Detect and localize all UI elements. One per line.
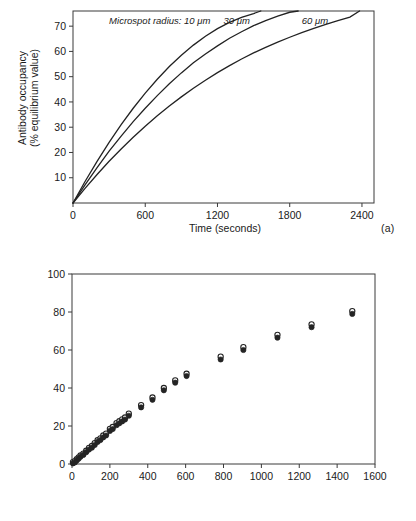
panel-a-x-tick-label-2400: 2400 <box>350 209 374 221</box>
panel-a-curve-30um <box>73 11 298 203</box>
panel-b-x-tick-label-200: 200 <box>101 470 119 482</box>
panel-a-plot: 102030405060700600120018002400Microspot … <box>0 0 416 258</box>
panel-b-point-filled <box>173 380 178 385</box>
panel-b-x-tick-label-1600: 1600 <box>363 470 387 482</box>
panel-a-curve-60um <box>73 11 360 203</box>
panel-b-point-filled <box>139 405 144 410</box>
panel-a-y-tick-label-70: 70 <box>54 20 66 32</box>
figure-container: 102030405060700600120018002400Microspot … <box>0 0 416 521</box>
panel-b-point-filled <box>103 433 108 438</box>
panel-b-y-tick-label-20: 20 <box>53 420 65 432</box>
panel-b-y-tick-label-100: 100 <box>47 268 65 280</box>
panel-b-point-filled <box>218 357 223 362</box>
panel-b-x-tick-label-800: 800 <box>215 470 233 482</box>
panel-b-point-filled <box>241 347 246 352</box>
panel-a-x-tick-label-1800: 1800 <box>278 209 302 221</box>
panel-b-point-filled <box>150 397 155 402</box>
panel-b-point-filled <box>309 325 314 330</box>
panel-b-x-tick-label-0: 0 <box>69 470 75 482</box>
panel-b-y-tick-label-40: 40 <box>53 382 65 394</box>
panel-b-point-filled <box>350 311 355 316</box>
panel-b-x-tick-label-600: 600 <box>177 470 195 482</box>
panel-b-point-filled <box>161 388 166 393</box>
panel-a-curve-10um <box>73 11 261 203</box>
panel-b-x-tick-label-1000: 1000 <box>250 470 274 482</box>
panel-a-x-tick-label-1200: 1200 <box>206 209 230 221</box>
panel-a-legend-label-30um: 30 μm <box>224 15 250 26</box>
panel-a-y-axis-title-line2: (% equilibrium value) <box>28 49 40 147</box>
panel-a-x-axis-title: Time (seconds) <box>140 222 310 234</box>
panel-b-y-tick-label-80: 80 <box>53 306 65 318</box>
panel-a-y-tick-label-40: 40 <box>54 96 66 108</box>
panel-b-point-filled <box>275 335 280 340</box>
panel-a-y-tick-label-10: 10 <box>54 171 66 183</box>
panel-a-frame <box>73 11 374 203</box>
panel-a: 102030405060700600120018002400Microspot … <box>0 0 416 258</box>
panel-b-point-filled <box>126 413 131 418</box>
panel-a-y-axis-title: Antibody occupancy (% equilibrium value) <box>17 18 40 178</box>
panel-a-x-tick-label-0: 0 <box>70 209 76 221</box>
panel-a-y-axis-title-line1: Antibody occupancy <box>16 51 28 145</box>
panel-a-y-tick-label-30: 30 <box>54 121 66 133</box>
panel-b-y-tick-label-0: 0 <box>59 458 65 470</box>
panel-a-y-tick-label-50: 50 <box>54 70 66 82</box>
panel-a-y-tick-label-60: 60 <box>54 45 66 57</box>
panel-b-plot: 0204060801000200400600800100012001400160… <box>0 258 416 521</box>
panel-a-x-tick-label-600: 600 <box>136 209 154 221</box>
panel-b-x-tick-label-400: 400 <box>139 470 157 482</box>
panel-a-legend-label-60um: 60 μm <box>302 15 328 26</box>
panel-b-y-tick-label-60: 60 <box>53 344 65 356</box>
panel-b-point-filled <box>184 373 189 378</box>
panel-b-x-tick-label-1400: 1400 <box>325 470 349 482</box>
panel-a-letter: (a) <box>381 222 394 234</box>
panel-b-x-tick-label-1200: 1200 <box>288 470 312 482</box>
panel-b: 0204060801000200400600800100012001400160… <box>0 258 416 521</box>
panel-a-y-tick-label-20: 20 <box>54 146 66 158</box>
panel-b-frame <box>72 274 375 464</box>
panel-a-legend-label-10um: Microspot radius: 10 μm <box>109 15 210 26</box>
